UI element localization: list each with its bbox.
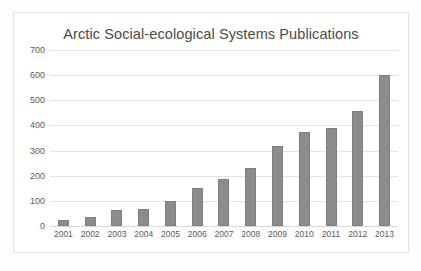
- bar-series: [50, 50, 398, 226]
- chart-title: Arctic Social-ecological Systems Publica…: [14, 26, 408, 42]
- y-axis-tick: 400: [30, 120, 45, 130]
- bar-2011[interactable]: [326, 128, 337, 226]
- x-axis-tick: 2002: [77, 229, 104, 239]
- x-axis-tick: 2001: [50, 229, 77, 239]
- y-axis-tick: 700: [30, 45, 45, 55]
- bar-slot: [371, 50, 398, 226]
- bar-2009[interactable]: [272, 146, 283, 226]
- bar-slot: [157, 50, 184, 226]
- x-axis-tick: 2011: [318, 229, 345, 239]
- bar-slot: [77, 50, 104, 226]
- y-axis-tick: 200: [30, 171, 45, 181]
- bar-2013[interactable]: [379, 75, 390, 226]
- bar-slot: [211, 50, 238, 226]
- bar-2006[interactable]: [192, 188, 203, 226]
- bar-2012[interactable]: [352, 111, 363, 226]
- x-axis-tick: 2012: [344, 229, 371, 239]
- x-axis-tick: 2003: [104, 229, 131, 239]
- gridline-0: [50, 226, 398, 227]
- bar-slot: [291, 50, 318, 226]
- plot-area: 0100200300400500600700: [50, 50, 398, 226]
- bar-2008[interactable]: [245, 168, 256, 226]
- x-axis-tick: 2007: [211, 229, 238, 239]
- x-axis-tick: 2006: [184, 229, 211, 239]
- bar-slot: [264, 50, 291, 226]
- bar-slot: [130, 50, 157, 226]
- x-axis-tick: 2013: [371, 229, 398, 239]
- y-axis-tick: 0: [40, 221, 45, 231]
- y-axis-tick: 300: [30, 146, 45, 156]
- bar-2005[interactable]: [165, 201, 176, 226]
- bar-slot: [344, 50, 371, 226]
- bar-slot: [104, 50, 131, 226]
- bar-slot: [318, 50, 345, 226]
- bar-slot: [184, 50, 211, 226]
- x-axis-tick: 2005: [157, 229, 184, 239]
- bar-slot: [50, 50, 77, 226]
- y-axis-tick: 100: [30, 196, 45, 206]
- x-axis-tick: 2010: [291, 229, 318, 239]
- bar-2004[interactable]: [138, 209, 149, 226]
- x-axis-labels: 2001200220032004200520062007200820092010…: [50, 229, 398, 239]
- bar-2007[interactable]: [218, 179, 229, 226]
- bar-2001[interactable]: [58, 220, 69, 226]
- x-axis-tick: 2008: [237, 229, 264, 239]
- y-axis-tick: 500: [30, 95, 45, 105]
- x-axis-tick: 2004: [130, 229, 157, 239]
- bar-2010[interactable]: [299, 132, 310, 226]
- bar-2002[interactable]: [85, 217, 96, 226]
- y-axis-tick: 600: [30, 70, 45, 80]
- bar-slot: [237, 50, 264, 226]
- bar-2003[interactable]: [111, 210, 122, 226]
- x-axis-tick: 2009: [264, 229, 291, 239]
- chart-card: Arctic Social-ecological Systems Publica…: [13, 12, 409, 253]
